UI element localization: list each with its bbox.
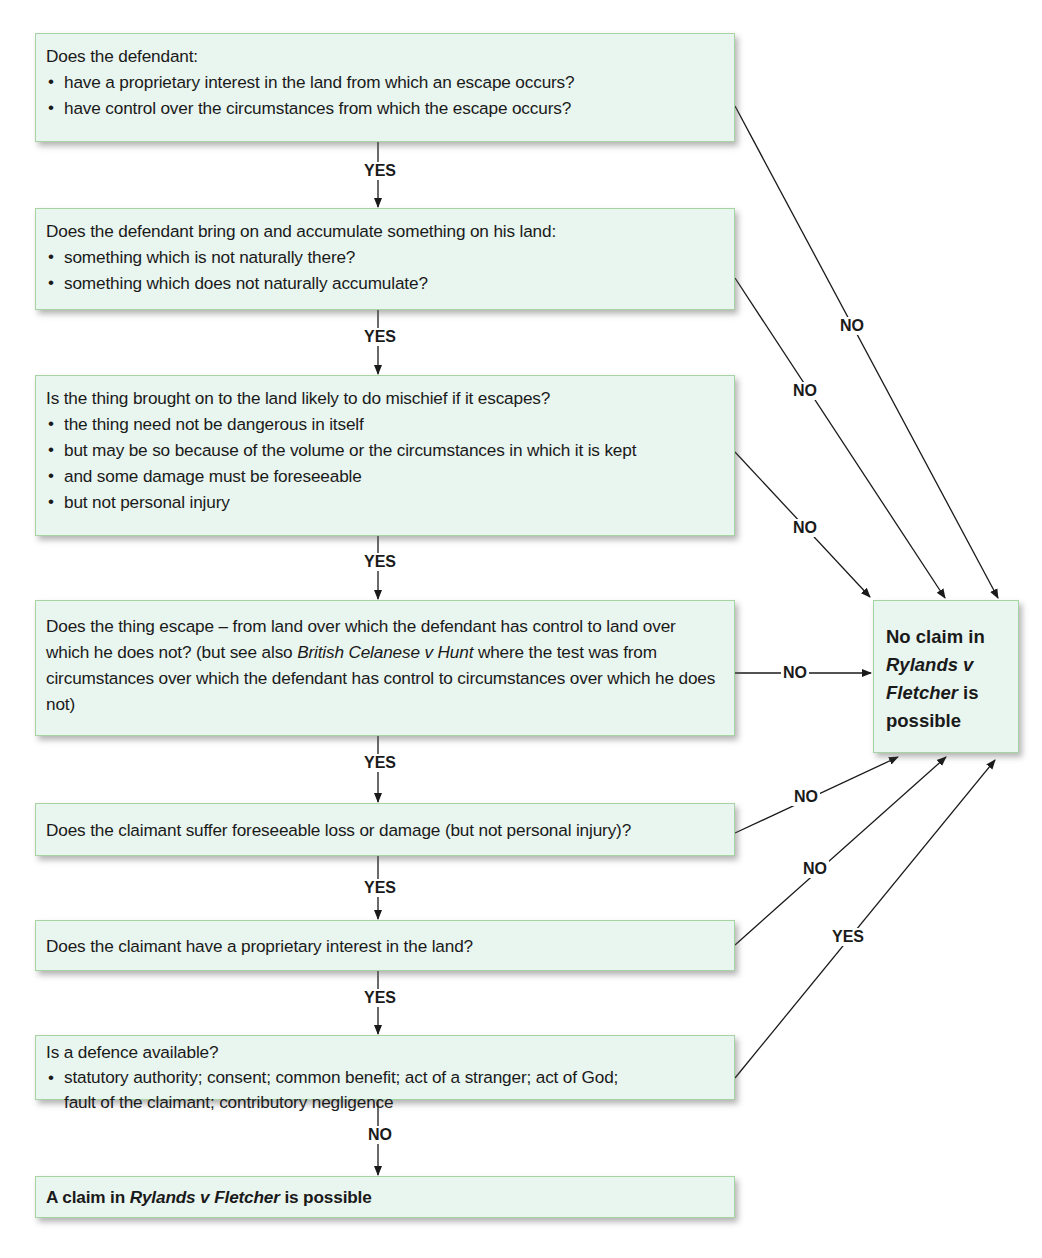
question-6-text: Does the claimant have a proprietary int… — [46, 933, 722, 959]
outcome-text: is possible — [280, 1187, 372, 1207]
label-yes-q3: YES — [362, 553, 398, 571]
case-name-british-celanese: British Celanese v Hunt — [297, 642, 473, 662]
question-box-3: Is the thing brought on to the land like… — [35, 375, 735, 536]
no-claim-case-name: Rylands v — [886, 651, 1008, 679]
question-7-bullet: statutory authority; consent; common ben… — [46, 1065, 722, 1090]
label-yes-q5: YES — [362, 879, 398, 897]
label-no-q1: NO — [838, 317, 866, 335]
label-no-q6: NO — [801, 860, 829, 878]
label-yes-q7: YES — [830, 928, 866, 946]
label-no-q2: NO — [791, 382, 819, 400]
question-box-5: Does the claimant suffer foreseeable los… — [35, 803, 735, 856]
no-claim-line: No claim in — [886, 623, 1008, 651]
question-3-bullet: and some damage must be foreseeable — [46, 463, 722, 489]
question-4-text: Does the thing escape – from land over w… — [46, 613, 722, 717]
no-claim-text: is — [958, 682, 979, 703]
question-3-text: Is the thing brought on to the land like… — [46, 385, 722, 411]
question-7-bullet-continued: fault of the claimant; contributory negl… — [46, 1090, 722, 1115]
question-3-bullet: the thing need not be dangerous in itsel… — [46, 411, 722, 437]
no-claim-line: Fletcher is — [886, 679, 1008, 707]
arrow-q6-no — [735, 757, 946, 945]
no-claim-case-name: Fletcher — [886, 682, 958, 703]
question-7-text: Is a defence available? — [46, 1040, 722, 1065]
question-box-4: Does the thing escape – from land over w… — [35, 600, 735, 736]
arrow-q1-no — [735, 106, 998, 598]
question-2-text: Does the defendant bring on and accumula… — [46, 218, 722, 244]
outcome-no-claim: No claim in Rylands v Fletcher is possib… — [873, 600, 1019, 753]
label-yes-q2: YES — [362, 328, 398, 346]
label-no-q4: NO — [781, 664, 809, 682]
question-2-bullet: something which is not naturally there? — [46, 244, 722, 270]
question-box-6: Does the claimant have a proprietary int… — [35, 920, 735, 971]
label-no-q5: NO — [792, 788, 820, 806]
question-3-bullet: but not personal injury — [46, 489, 722, 515]
question-5-text: Does the claimant suffer foreseeable los… — [46, 817, 722, 843]
label-no-q7: NO — [366, 1126, 394, 1144]
question-3-bullet: but may be so because of the volume or t… — [46, 437, 722, 463]
question-2-bullet: something which does not naturally accum… — [46, 270, 722, 296]
label-no-q3: NO — [791, 519, 819, 537]
outcome-text: A claim in — [46, 1187, 130, 1207]
question-1-text: Does the defendant: — [46, 43, 722, 69]
no-claim-line: possible — [886, 707, 1008, 735]
outcome-claim-possible: A claim in Rylands v Fletcher is possibl… — [35, 1176, 735, 1218]
case-name-rylands: Rylands v Fletcher — [130, 1187, 280, 1207]
question-1-bullet: have a proprietary interest in the land … — [46, 69, 722, 95]
question-box-2: Does the defendant bring on and accumula… — [35, 208, 735, 310]
arrow-q7-yes — [735, 760, 995, 1078]
question-1-bullet: have control over the circumstances from… — [46, 95, 722, 121]
label-yes-q6: YES — [362, 989, 398, 1007]
question-box-1: Does the defendant: have a proprietary i… — [35, 33, 735, 142]
label-yes-q4: YES — [362, 754, 398, 772]
label-yes-q1: YES — [362, 162, 398, 180]
question-box-7: Is a defence available? statutory author… — [35, 1035, 735, 1100]
